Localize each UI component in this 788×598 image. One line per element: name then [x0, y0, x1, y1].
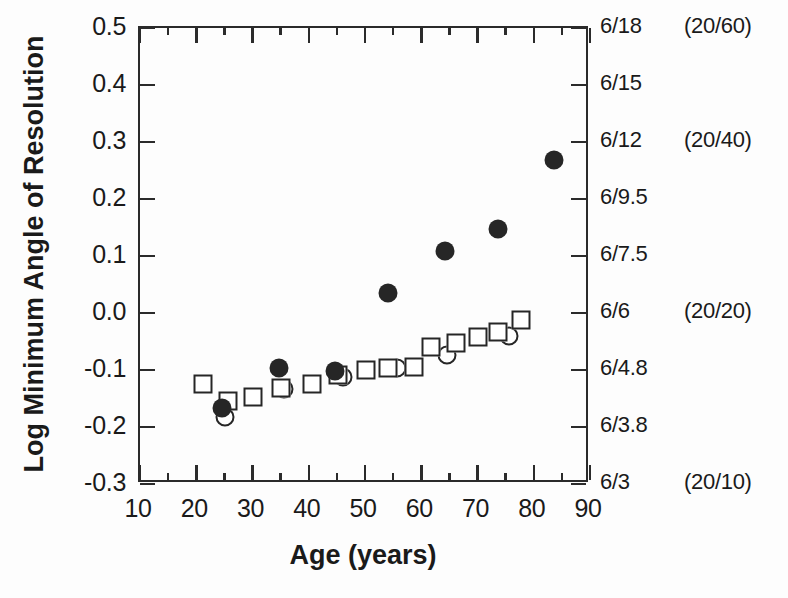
x-axis-tick-label: 80: [518, 494, 545, 523]
data-point-filled-circle: [379, 283, 398, 302]
x-axis-tick-label: 60: [406, 494, 433, 523]
data-point-open-square: [356, 361, 375, 380]
y-axis-snellen-label: 6/9.5: [600, 184, 647, 210]
y-axis-tick-label: 0.5: [6, 12, 126, 41]
data-point-open-square: [303, 374, 322, 393]
y-axis-snellen-label: 6/12: [600, 127, 642, 153]
data-point-filled-circle: [545, 150, 564, 169]
data-point-filled-circle: [489, 220, 508, 239]
y-axis-snellen-label: 6/3.8: [600, 412, 647, 438]
x-axis-tick-label: 50: [349, 494, 376, 523]
data-point-open-square: [446, 334, 465, 353]
x-axis-tick-label: 20: [181, 494, 208, 523]
data-point-open-square: [469, 328, 488, 347]
data-point-open-square: [511, 310, 530, 329]
data-point-filled-circle: [213, 398, 232, 417]
y-axis-tick-label: -0.1: [6, 354, 126, 383]
y-axis-snellen-label: 6/15: [600, 70, 642, 96]
y-axis-tick-label: -0.3: [6, 468, 126, 497]
data-point-open-square: [421, 338, 440, 357]
data-point-open-square: [244, 387, 263, 406]
data-point-open-square: [379, 359, 398, 378]
y-axis-snellen-label: 6/6: [600, 298, 630, 324]
y-axis-us-equivalent-label: (20/60): [684, 13, 752, 39]
plot-overlay: 0.56/18(20/60)0.46/150.36/12(20/40)0.26/…: [0, 0, 788, 598]
x-axis-tick-label: 70: [462, 494, 489, 523]
y-axis-snellen-label: 6/3: [600, 469, 630, 495]
x-axis-tick-label: 30: [237, 494, 264, 523]
x-axis-tick-label: 10: [124, 494, 151, 523]
data-point-filled-circle: [435, 242, 454, 261]
y-axis-snellen-label: 6/7.5: [600, 241, 647, 267]
y-axis-tick-label: 0.1: [6, 240, 126, 269]
x-axis-tick-label: 40: [293, 494, 320, 523]
y-axis-us-equivalent-label: (20/20): [684, 298, 752, 324]
y-axis-us-equivalent-label: (20/40): [684, 127, 752, 153]
data-point-open-square: [193, 374, 212, 393]
y-axis-tick-label: 0.0: [6, 297, 126, 326]
y-axis-snellen-label: 6/4.8: [600, 355, 647, 381]
y-axis-tick-label: 0.2: [6, 183, 126, 212]
data-point-open-square: [489, 323, 508, 342]
data-point-open-square: [404, 357, 423, 376]
data-point-filled-circle: [325, 361, 344, 380]
x-axis-tick-label: 90: [574, 494, 601, 523]
data-point-filled-circle: [269, 359, 288, 378]
y-axis-tick-label: 0.4: [6, 69, 126, 98]
y-axis-us-equivalent-label: (20/10): [684, 469, 752, 495]
y-axis-snellen-label: 6/18: [600, 13, 642, 39]
figure-scatter-acuity-vs-age: Log Minimum Angle of Resolution Age (yea…: [0, 0, 788, 598]
y-axis-tick-label: 0.3: [6, 126, 126, 155]
y-axis-tick-label: -0.2: [6, 411, 126, 440]
data-point-open-square: [272, 378, 291, 397]
